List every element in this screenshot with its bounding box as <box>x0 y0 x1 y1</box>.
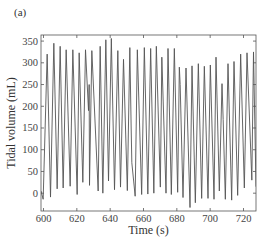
x-tick-label: 620 <box>69 213 85 224</box>
y-tick-label: 150 <box>22 122 38 133</box>
y-tick-label: 0 <box>33 188 38 199</box>
y-axis-title: Tidal volume (mL) <box>4 77 18 169</box>
panel-label: (a) <box>14 6 27 19</box>
x-axis: 600620640660680700720 <box>36 35 252 224</box>
y-tick-label: 50 <box>28 166 39 177</box>
x-tick-label: 700 <box>202 213 218 224</box>
x-axis-title: Time (s) <box>128 223 169 237</box>
x-tick-label: 680 <box>169 213 185 224</box>
plot-area <box>41 35 256 211</box>
x-tick-label: 720 <box>236 213 252 224</box>
y-tick-label: 100 <box>22 144 38 155</box>
x-tick-label: 600 <box>36 213 52 224</box>
y-tick-label: 350 <box>22 36 38 47</box>
y-tick-label: 250 <box>22 79 38 90</box>
tidal-volume-chart: (a) 600620640660680700720 05010015020025… <box>0 0 273 248</box>
y-tick-label: 300 <box>22 57 38 68</box>
tidal-volume-trace <box>41 38 256 207</box>
x-tick-label: 640 <box>102 213 118 224</box>
y-tick-label: 200 <box>22 101 38 112</box>
